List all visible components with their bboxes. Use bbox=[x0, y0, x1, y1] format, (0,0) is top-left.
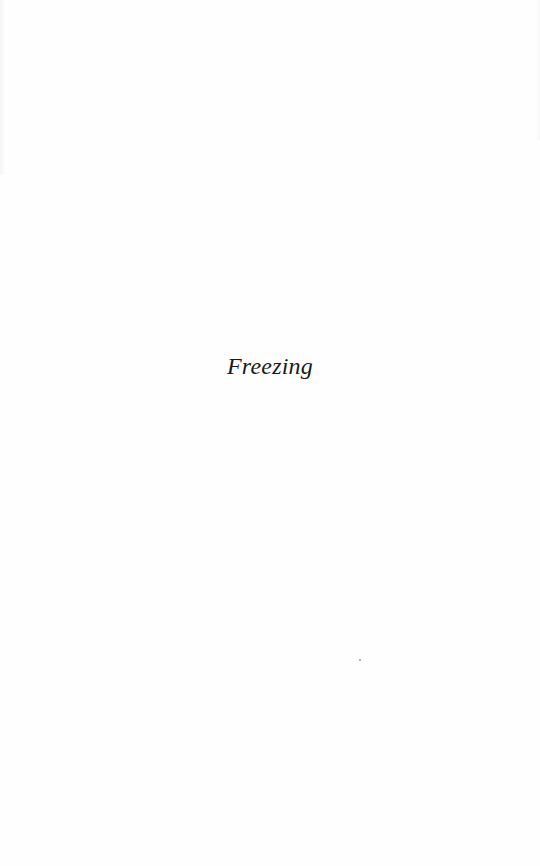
book-page: Freezing bbox=[0, 0, 540, 866]
scan-edge-right bbox=[536, 0, 540, 140]
section-title: Freezing bbox=[0, 353, 540, 380]
scan-edge-left bbox=[0, 0, 5, 175]
scan-speck bbox=[359, 659, 361, 661]
